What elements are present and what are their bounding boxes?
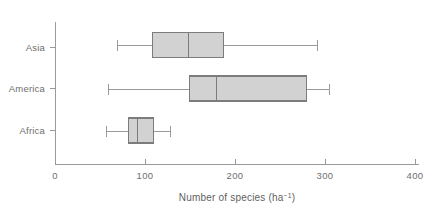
category-label-africa: Africa [20, 125, 46, 136]
x-tick-label-300: 300 [317, 170, 334, 181]
y-category-labels: Asia America Africa [9, 42, 46, 136]
x-axis-title: Number of species (ha−1) [179, 192, 296, 204]
y-tick-marks [50, 48, 56, 131]
category-label-america: America [9, 83, 46, 94]
x-axis-title-main: Number of species (ha [179, 192, 284, 203]
boxplot-svg: 0 100 200 300 400 Asia America Africa Nu… [0, 0, 439, 213]
x-tick-label-100: 100 [137, 170, 154, 181]
box-america [190, 76, 307, 101]
box-africa [128, 118, 153, 143]
x-tick-label-200: 200 [227, 170, 244, 181]
boxplot-figure: 0 100 200 300 400 Asia America Africa Nu… [0, 0, 439, 213]
box-plot-america [108, 76, 330, 101]
x-axis-title-superscript: −1 [284, 192, 292, 199]
category-label-asia: Asia [26, 42, 46, 53]
box-plots-layer [106, 33, 330, 144]
x-tick-marks [56, 159, 416, 165]
x-tick-labels: 0 100 200 300 400 [52, 170, 423, 181]
x-tick-label-0: 0 [52, 170, 58, 181]
box-plot-africa [106, 118, 171, 143]
box-plot-asia [117, 33, 318, 58]
x-axis-title-tail: ) [292, 192, 296, 203]
x-tick-label-400: 400 [407, 170, 424, 181]
